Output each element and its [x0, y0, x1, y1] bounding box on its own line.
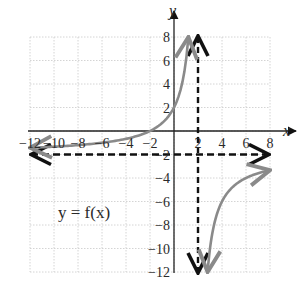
graph-figure: −12−10−8−6−4−224688642−2−4−6−8−10−12 x y… [0, 0, 308, 288]
x-tick-label: −8 [71, 136, 86, 151]
x-tick-label: −10 [43, 136, 65, 151]
x-tick-label: −4 [119, 136, 134, 151]
y-tick-label: −8 [155, 218, 170, 233]
x-tick-label: 6 [243, 136, 250, 151]
y-tick-label: −4 [155, 171, 170, 186]
y-tick-label: 8 [163, 30, 170, 45]
x-tick-label: 4 [219, 136, 226, 151]
y-tick-label: −6 [155, 195, 170, 210]
x-tick-label: 8 [267, 136, 274, 151]
axes [28, 11, 296, 273]
y-axis-label: y [167, 2, 177, 20]
y-tick-label: 6 [163, 54, 170, 69]
y-tick-label: −10 [148, 242, 170, 257]
y-tick-label: −2 [155, 148, 170, 163]
y-tick-label: −12 [148, 265, 170, 280]
x-tick-label: −6 [95, 136, 110, 151]
x-tick-label: −12 [19, 136, 41, 151]
y-tick-label: 4 [163, 77, 170, 92]
function-graph: −12−10−8−6−4−224688642−2−4−6−8−10−12 x y… [0, 0, 308, 288]
y-tick-label: 2 [163, 101, 170, 116]
x-axis-label: x [282, 122, 290, 139]
function-label: y = f(x) [58, 203, 110, 222]
x-tick-label: 2 [195, 136, 202, 151]
curve-right-branch [208, 170, 270, 272]
